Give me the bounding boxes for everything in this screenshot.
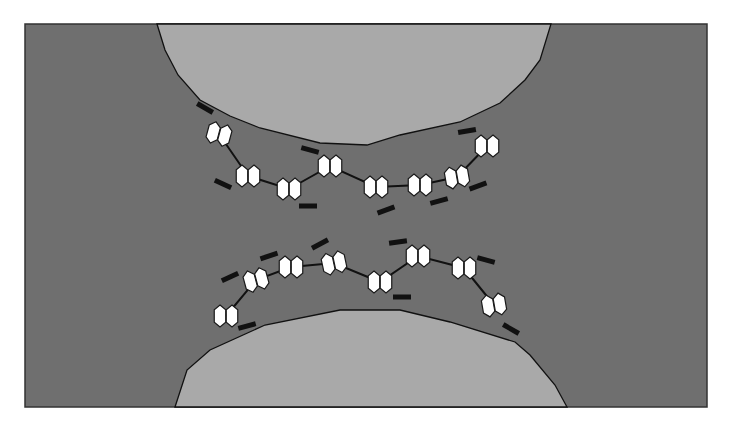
charge-bar-icon bbox=[393, 295, 411, 300]
charge-bar-icon bbox=[299, 204, 317, 209]
diagram bbox=[0, 0, 730, 425]
